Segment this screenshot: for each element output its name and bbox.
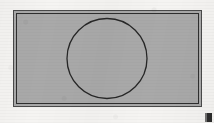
- outer-rectangle-shape: [14, 11, 202, 107]
- figure-canvas: [0, 0, 214, 123]
- geometric-drawing: [0, 0, 214, 123]
- registration-mark: [205, 113, 212, 122]
